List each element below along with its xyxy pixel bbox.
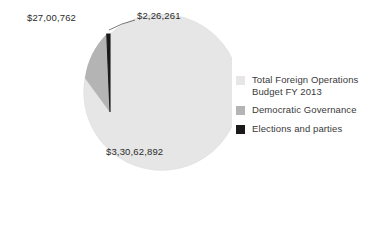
- legend-label-line2: Budget FY 2013: [252, 86, 322, 97]
- data-label-total-foreign-operations: $3,30,62,892: [106, 146, 163, 157]
- legend-swatch-icon: [236, 106, 245, 115]
- data-label-democratic-governance: $27,00,762: [27, 12, 76, 23]
- legend-swatch-icon: [236, 76, 245, 85]
- legend-swatch-icon: [236, 125, 245, 134]
- legend-item-democratic-governance[interactable]: Democratic Governance: [236, 104, 384, 116]
- pie-chart-figure: $27,00,762 $2,26,261 $3,30,62,892 Total …: [0, 0, 385, 234]
- legend-item-label: Total Foreign Operations Budget FY 2013: [252, 74, 358, 97]
- legend-item-label: Democratic Governance: [252, 104, 357, 116]
- legend-item-total-foreign-operations[interactable]: Total Foreign Operations Budget FY 2013: [236, 74, 384, 97]
- chart-legend: Total Foreign Operations Budget FY 2013 …: [236, 74, 384, 134]
- legend-item-elections-and-parties[interactable]: Elections and parties: [236, 123, 384, 135]
- legend-label-line1: Total Foreign Operations: [252, 74, 358, 85]
- pie-plot-area: $27,00,762 $2,26,261 $3,30,62,892: [0, 0, 232, 234]
- pie-svg: [0, 0, 232, 234]
- legend-item-label: Elections and parties: [252, 123, 342, 135]
- data-label-elections-and-parties: $2,26,261: [137, 10, 181, 21]
